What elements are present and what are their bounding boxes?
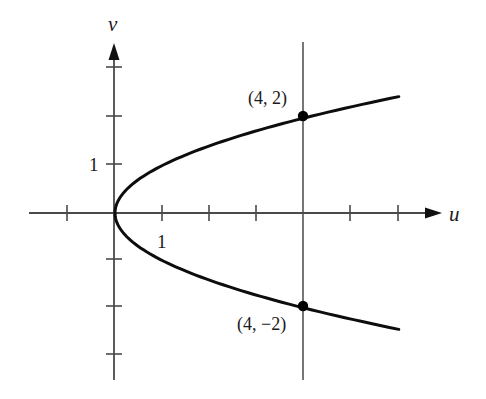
point-upper-label: (4, 2) [248,88,287,109]
u-tick-label-1: 1 [157,231,167,252]
point-upper-marker [298,111,308,121]
point-lower-marker [298,301,308,311]
v-tick-label-1: 1 [89,154,99,175]
v-axis-arrow-icon [109,43,120,60]
v-axis-label: v [108,12,118,36]
point-lower-label: (4, −2) [237,314,286,335]
u-axis [29,208,442,219]
parabola-chart: v u 1 1 (4, 2) (4, −2) [0,0,486,399]
u-axis-arrow-icon [425,208,442,219]
u-axis-label: u [449,202,460,226]
